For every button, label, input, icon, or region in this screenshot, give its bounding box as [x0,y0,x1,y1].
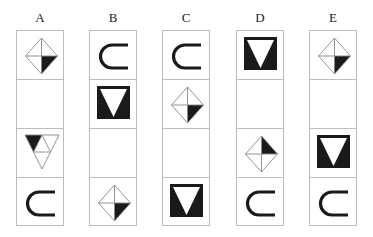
cell-horseshoe [90,31,136,80]
black-square-triangle-icon [97,86,130,119]
cell-empty [163,129,209,178]
cell-black-square-tri [163,178,209,227]
horseshoe-icon [248,192,275,215]
cell-empty [17,80,63,129]
column-label: D [236,10,285,26]
diamond-quadrant-icon [26,38,58,74]
horseshoe-icon [321,192,348,215]
diamond-quadrant-icon [319,38,351,74]
diamond-quadrant-icon [246,136,278,172]
cell-horseshoe [237,178,283,227]
option-column-c[interactable] [162,30,210,226]
cell-black-square-tri [90,80,136,129]
cell-diamond-br [90,178,136,227]
cell-diamond-br [310,31,356,80]
horseshoe-icon [101,45,128,68]
column-label: E [309,10,358,26]
option-column-a[interactable] [16,30,64,226]
triangle-grid-icon [25,135,59,169]
cell-horseshoe [163,31,209,80]
diamond-quadrant-icon [99,185,131,221]
black-square-triangle-icon [170,184,203,217]
option-column-b[interactable] [89,30,137,226]
column-label: C [162,10,211,26]
cell-black-square-tri [237,31,283,80]
cell-horseshoe [17,178,63,227]
cell-black-square-tri [310,129,356,178]
cell-diamond-br [17,31,63,80]
cell-empty [237,80,283,129]
horseshoe-icon [174,45,201,68]
cell-horseshoe [310,178,356,227]
option-column-d[interactable] [236,30,284,226]
cell-tri-grid [17,129,63,178]
cell-diamond-tr [237,129,283,178]
option-column-e[interactable] [309,30,357,226]
black-square-triangle-icon [244,37,277,70]
column-label: A [16,10,65,26]
black-square-triangle-icon [317,135,350,168]
horseshoe-icon [28,192,55,215]
diamond-quadrant-icon [172,87,204,123]
cell-empty [90,129,136,178]
column-label: B [89,10,138,26]
cell-empty [310,80,356,129]
cell-diamond-br [163,80,209,129]
